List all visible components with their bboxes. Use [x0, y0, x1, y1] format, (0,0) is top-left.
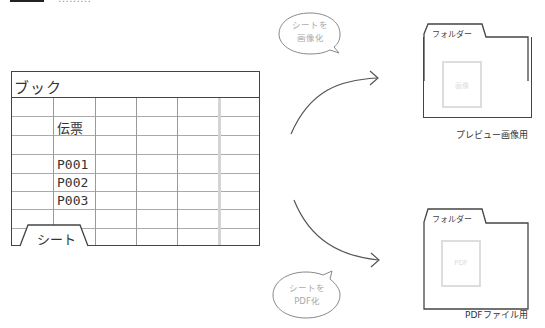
header-text: ……… [58, 0, 91, 5]
grid-col-line [53, 98, 54, 228]
thumbnail-label: 画像 [444, 80, 480, 90]
folder-pdf-caption: PDFファイル用 [465, 308, 528, 321]
folder-pdf-tab-label: フォルダー [432, 213, 472, 224]
sheet-tab-label[interactable]: シート [37, 229, 76, 248]
thumbnail-label: PDF [443, 259, 479, 267]
grid-col-line [177, 98, 178, 245]
arrows [280, 60, 390, 290]
folder-preview-tab-label: フォルダー [432, 28, 472, 39]
thumbnail-image: 画像 [442, 61, 482, 108]
bubble-line: PDF化 [282, 295, 332, 308]
folder-preview-caption: プレビュー画像用 [456, 128, 528, 141]
bubble-image-text: シートを 画像化 [286, 19, 334, 45]
cell-header: 伝票 [57, 118, 83, 137]
book-title: ブック [14, 76, 62, 97]
grid-col-line [95, 98, 96, 245]
bubble-line: 画像化 [286, 32, 334, 45]
thumbnail-pdf: PDF [441, 240, 481, 287]
scroll-divider [218, 98, 221, 245]
cell-p001: P001 [57, 157, 88, 172]
bubble-pdf-text: シートを PDF化 [282, 282, 332, 308]
grid-col-line [136, 98, 137, 245]
bubble-line: シートを [282, 282, 332, 295]
header-bar [10, 0, 44, 2]
cell-p002: P002 [57, 175, 88, 190]
cell-p003: P003 [57, 193, 88, 208]
bubble-line: シートを [286, 19, 334, 32]
